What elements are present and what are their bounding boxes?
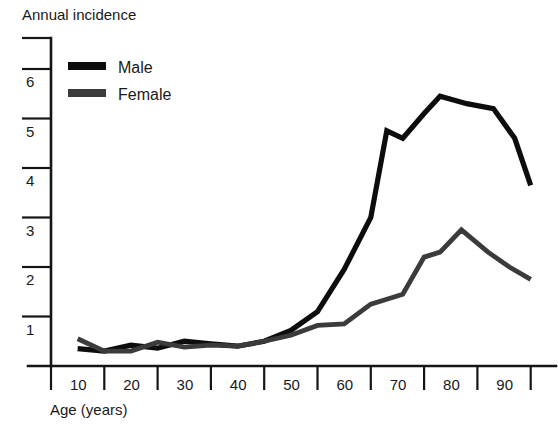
x-tick-label-60: 60 bbox=[336, 376, 353, 393]
legend-label-female: Female bbox=[118, 86, 171, 103]
legend-swatch-female bbox=[68, 89, 106, 97]
y-tick-label-3: 3 bbox=[26, 222, 34, 239]
y-axis-title: Annual incidence bbox=[22, 6, 136, 23]
x-tick-label-10: 10 bbox=[70, 376, 87, 393]
x-tick-label-90: 90 bbox=[496, 376, 513, 393]
x-tick-label-20: 20 bbox=[123, 376, 140, 393]
legend-swatch-male bbox=[68, 62, 106, 70]
chart-container: Annual incidence 123456 1020304050607080… bbox=[0, 0, 558, 428]
x-tick-label-80: 80 bbox=[443, 376, 460, 393]
y-tick-label-6: 6 bbox=[26, 73, 34, 90]
series-line-female bbox=[78, 230, 531, 351]
y-axis-ticks: 123456 bbox=[22, 38, 51, 338]
x-axis-title: Age (years) bbox=[50, 401, 128, 418]
x-tick-label-70: 70 bbox=[390, 376, 407, 393]
chart-legend: MaleFemale bbox=[68, 59, 171, 103]
x-tick-label-50: 50 bbox=[283, 376, 300, 393]
data-series-group bbox=[78, 96, 531, 351]
x-tick-label-40: 40 bbox=[230, 376, 247, 393]
x-axis-ticks: 102030405060708090 bbox=[51, 366, 531, 393]
legend-label-male: Male bbox=[118, 59, 153, 76]
y-tick-label-5: 5 bbox=[26, 123, 34, 140]
x-tick-label-30: 30 bbox=[177, 376, 194, 393]
y-tick-label-1: 1 bbox=[26, 321, 34, 338]
incidence-line-chart: Annual incidence 123456 1020304050607080… bbox=[0, 0, 558, 428]
y-tick-label-4: 4 bbox=[26, 172, 34, 189]
y-tick-label-2: 2 bbox=[26, 271, 34, 288]
series-line-male bbox=[78, 96, 531, 351]
